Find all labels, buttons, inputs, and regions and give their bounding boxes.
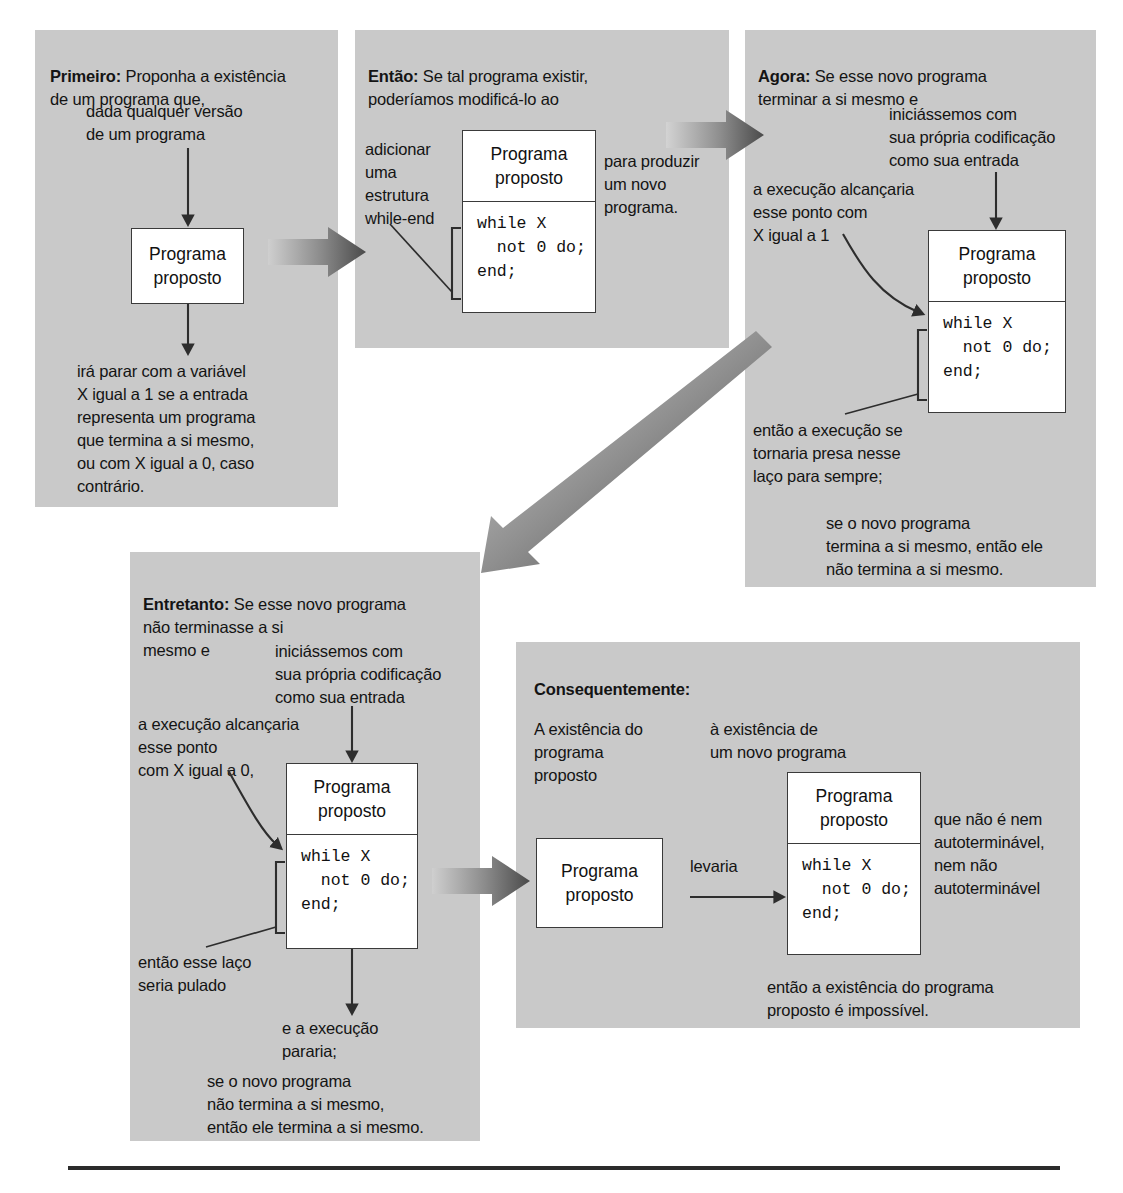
agora-program-box: Programa proposto while X not 0 do; end;	[928, 230, 1066, 413]
entao-lead-label: Então:	[368, 67, 418, 85]
entretanto-lead-label: Entretanto:	[143, 595, 229, 613]
primeiro-note-bottom: irá parar com a variável X igual a 1 se …	[77, 360, 337, 498]
entretanto-note-stop: e a execução pararia;	[282, 1017, 462, 1063]
entretanto-note-conclusion: se o novo programa não termina a si mesm…	[207, 1070, 487, 1139]
consequentemente-note-neither: que não é nem autoterminável, nem não au…	[934, 808, 1094, 900]
agora-lead-block: Agora: Se esse novo programa terminar a …	[758, 42, 1088, 111]
fat-arrow-agora-to-entretanto	[481, 331, 772, 573]
consequentemente-note-to: à existência de um novo programa	[710, 718, 930, 764]
consequentemente-note-leads: levaria	[690, 855, 770, 878]
entretanto-note-skip: então esse laço seria pulado	[138, 951, 338, 997]
consequentemente-program-box-left: Programa proposto	[536, 838, 663, 928]
primeiro-note-top: dada qualquer versão de um programa	[86, 100, 326, 146]
agora-program-box-code: while X not 0 do; end;	[929, 302, 1065, 394]
entao-program-box-code: while X not 0 do; end;	[463, 202, 595, 294]
agora-program-box-title: Programa proposto	[929, 231, 1065, 301]
consequentemente-note-conclusion: então a existência do programa proposto …	[767, 976, 1097, 1022]
primeiro-lead-label: Primeiro:	[50, 67, 121, 85]
primeiro-program-box: Programa proposto	[131, 228, 244, 304]
entretanto-note-input: iniciássemos com sua própria codificação…	[275, 640, 485, 709]
entretanto-program-box-code: while X not 0 do; end;	[287, 835, 417, 927]
consequentemente-lead-label: Consequentemente:	[534, 678, 854, 701]
primeiro-program-box-title: Programa proposto	[132, 229, 243, 303]
agora-note-loop: então a execução se tornaria presa nesse…	[753, 419, 973, 488]
agora-note-exec: a execução alcançaria esse ponto com X i…	[753, 178, 953, 247]
consequentemente-program-box-right-code: while X not 0 do; end;	[788, 844, 920, 936]
entretanto-program-box: Programa proposto while X not 0 do; end;	[286, 763, 418, 949]
consequentemente-program-box-right-title: Programa proposto	[788, 773, 920, 843]
entao-lead-block: Então: Se tal programa existir, poderíam…	[368, 42, 718, 111]
consequentemente-note-existence: A existência do programa proposto	[534, 718, 714, 787]
entao-program-box: Programa proposto while X not 0 do; end;	[462, 130, 596, 313]
agora-note-conclusion: se o novo programa termina a si mesmo, e…	[826, 512, 1096, 581]
entao-note-right: para produzir um novo programa.	[604, 150, 729, 219]
entretanto-program-box-title: Programa proposto	[287, 764, 417, 834]
diagram-canvas: Primeiro: Proponha a existência de um pr…	[0, 0, 1123, 1193]
entao-note-left: adicionar uma estrutura while-end	[365, 138, 475, 230]
agora-lead-label: Agora:	[758, 67, 810, 85]
consequentemente-program-box-left-title: Programa proposto	[537, 839, 662, 927]
consequentemente-program-box-right: Programa proposto while X not 0 do; end;	[787, 772, 921, 955]
entao-program-box-title: Programa proposto	[463, 131, 595, 201]
agora-note-input: iniciássemos com sua própria codificação…	[889, 103, 1099, 172]
footer-rule	[68, 1166, 1060, 1170]
